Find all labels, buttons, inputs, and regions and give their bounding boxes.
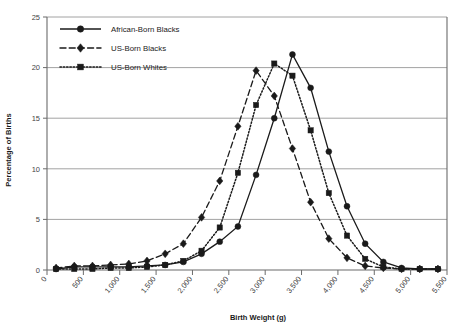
series-line — [56, 54, 438, 269]
data-point — [272, 61, 277, 66]
x-tick-label: 500 — [70, 275, 85, 290]
x-tick-label: 5,500 — [430, 275, 449, 295]
series-1 — [53, 51, 441, 271]
legend-marker-square-icon — [78, 64, 84, 70]
legend-label: US-Born Blacks — [111, 44, 166, 53]
birth-weight-distribution-chart: 0510152025 05001,0001,5002,0002,5003,000… — [0, 0, 459, 327]
y-tick-label: 10 — [32, 165, 40, 174]
data-point — [271, 115, 277, 121]
data-point — [290, 73, 295, 78]
data-point — [308, 85, 314, 91]
data-point — [108, 265, 113, 270]
legend-marker-diamond-icon — [77, 44, 84, 53]
data-point — [308, 128, 313, 133]
data-point — [417, 266, 422, 271]
data-point — [363, 256, 368, 261]
data-point — [217, 177, 223, 185]
data-point — [271, 92, 277, 100]
legend-label: US-Born Whites — [111, 63, 167, 72]
x-tick-label: 1,500 — [139, 275, 158, 295]
y-tick-label: 15 — [32, 114, 40, 123]
data-point — [181, 258, 186, 263]
data-point — [290, 51, 296, 57]
data-point — [217, 239, 223, 245]
x-tick-labels: 05001,0001,5002,0002,5003,0003,5004,0004… — [39, 275, 449, 295]
data-point — [344, 203, 350, 209]
chart-container: 0510152025 05001,0001,5002,0002,5003,000… — [0, 0, 459, 327]
data-point — [435, 266, 440, 271]
data-point — [399, 266, 404, 271]
gridlines — [47, 17, 447, 219]
series-line — [56, 71, 438, 269]
x-tick-label: 2,000 — [175, 275, 194, 295]
data-point — [199, 248, 204, 253]
x-tick-label: 0 — [39, 275, 49, 284]
data-point — [344, 233, 349, 238]
data-point — [235, 122, 241, 130]
x-axis — [47, 17, 447, 275]
data-point — [235, 170, 240, 175]
x-axis-title: Birth Weight (g) — [230, 313, 287, 322]
data-point — [289, 145, 295, 153]
y-tick-label: 20 — [32, 63, 40, 72]
data-point — [144, 264, 149, 269]
data-point — [307, 198, 313, 206]
data-point — [326, 149, 332, 155]
x-tick-label: 1,000 — [103, 275, 122, 295]
data-point — [253, 102, 258, 107]
legend-label: African-Born Blacks — [111, 25, 180, 34]
x-tick-label: 4,500 — [357, 275, 376, 295]
x-tick-label: 2,500 — [212, 275, 231, 295]
data-point — [163, 262, 168, 267]
data-point — [362, 241, 368, 247]
legend-item-1: African-Born Blacks — [60, 25, 180, 34]
data-series-group — [53, 51, 441, 272]
data-point — [235, 224, 241, 230]
y-axis — [43, 17, 47, 270]
data-point — [326, 190, 331, 195]
data-point — [217, 225, 222, 230]
legend-item-2: US-Born Blacks — [60, 44, 166, 53]
y-axis-title: Percentage of Births — [4, 113, 13, 186]
series-2 — [53, 67, 441, 273]
data-point — [126, 265, 131, 270]
y-tick-labels: 0510152025 — [32, 13, 40, 275]
data-point — [362, 262, 368, 270]
x-tick-label: 5,000 — [394, 275, 413, 295]
x-tick-label: 3,000 — [248, 275, 267, 295]
x-tick-label: 3,500 — [284, 275, 303, 295]
x-tick-label: 4,000 — [321, 275, 340, 295]
y-tick-label: 5 — [36, 215, 40, 224]
legend-marker-circle-icon — [77, 26, 83, 32]
y-tick-label: 0 — [36, 266, 40, 275]
data-point — [90, 266, 95, 271]
legend-item-3: US-Born Whites — [60, 63, 167, 72]
data-point — [144, 257, 150, 265]
data-point — [72, 266, 77, 271]
data-point — [381, 264, 386, 269]
data-point — [53, 266, 58, 271]
series-3 — [53, 61, 440, 272]
data-point — [253, 172, 259, 178]
chart-legend: African-Born BlacksUS-Born BlacksUS-Born… — [60, 25, 180, 72]
series-line — [56, 64, 438, 269]
data-point — [162, 250, 168, 258]
y-tick-label: 25 — [32, 13, 40, 22]
